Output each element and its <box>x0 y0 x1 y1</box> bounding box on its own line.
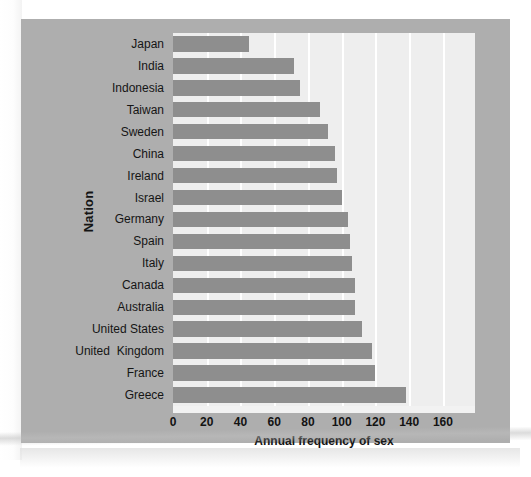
bar-row <box>173 55 475 77</box>
bar <box>173 343 372 358</box>
x-tick-label: 120 <box>365 415 385 429</box>
y-tick-label: Greece <box>66 384 171 406</box>
y-tick-label: India <box>66 55 171 77</box>
x-axis-line <box>173 406 475 413</box>
bar <box>173 387 406 402</box>
y-axis-tick-labels: JapanIndiaIndonesiaTaiwanSwedenChinaIrel… <box>66 33 171 406</box>
y-tick-label: France <box>66 362 171 384</box>
bar-row <box>173 99 475 121</box>
y-tick-label: Taiwan <box>66 99 171 121</box>
x-tick-label: 40 <box>234 415 247 429</box>
bar-row <box>173 143 475 165</box>
x-tick-label: 20 <box>200 415 213 429</box>
bar <box>173 58 294 73</box>
bar-row <box>173 252 475 274</box>
x-tick-label: 160 <box>433 415 453 429</box>
bar <box>173 234 350 249</box>
bar-row <box>173 187 475 209</box>
bar <box>173 256 352 271</box>
y-tick-label: Japan <box>66 33 171 55</box>
bar <box>173 80 300 95</box>
bar-row <box>173 121 475 143</box>
page-bottom-artifact <box>20 448 520 470</box>
bar-row <box>173 340 475 362</box>
bar <box>173 124 328 139</box>
bar-row <box>173 165 475 187</box>
bar-row <box>173 274 475 296</box>
bar <box>173 300 355 315</box>
bar-row <box>173 362 475 384</box>
x-tick-label: 60 <box>268 415 281 429</box>
bar-row <box>173 77 475 99</box>
y-tick-label: Australia <box>66 296 171 318</box>
y-tick-label: Indonesia <box>66 77 171 99</box>
x-tick-label: 0 <box>170 415 177 429</box>
y-tick-label: Israel <box>66 187 171 209</box>
x-tick-label: 80 <box>301 415 314 429</box>
bar <box>173 36 249 51</box>
bar-row <box>173 296 475 318</box>
bar-row <box>173 33 475 55</box>
y-tick-label: Italy <box>66 252 171 274</box>
bar <box>173 321 362 336</box>
bar <box>173 278 355 293</box>
y-tick-label: Ireland <box>66 165 171 187</box>
y-tick-label: United States <box>66 318 171 340</box>
y-tick-label: Germany <box>66 209 171 231</box>
y-tick-label: Canada <box>66 274 171 296</box>
bar <box>173 190 342 205</box>
bar-row <box>173 209 475 231</box>
bar <box>173 212 348 227</box>
bar <box>173 102 320 117</box>
y-tick-label: Sweden <box>66 121 171 143</box>
bar-row <box>173 384 475 406</box>
x-tick-label: 140 <box>399 415 419 429</box>
bar <box>173 168 337 183</box>
chart-figure-panel: Nation JapanIndiaIndonesiaTaiwanSwedenCh… <box>21 19 510 443</box>
bar-row <box>173 318 475 340</box>
page-edge-artifact <box>0 0 22 460</box>
y-tick-label: United Kingdom <box>66 340 171 362</box>
bar <box>173 365 375 380</box>
x-tick-label: 100 <box>332 415 352 429</box>
bar-series <box>173 33 475 406</box>
x-axis-title: Annual frequency of sex <box>173 434 475 448</box>
x-axis-tick-labels: 020406080100120140160 <box>173 415 503 431</box>
plot-area <box>173 33 475 406</box>
y-tick-label: China <box>66 143 171 165</box>
y-tick-label: Spain <box>66 230 171 252</box>
bar-row <box>173 230 475 252</box>
bar <box>173 146 335 161</box>
